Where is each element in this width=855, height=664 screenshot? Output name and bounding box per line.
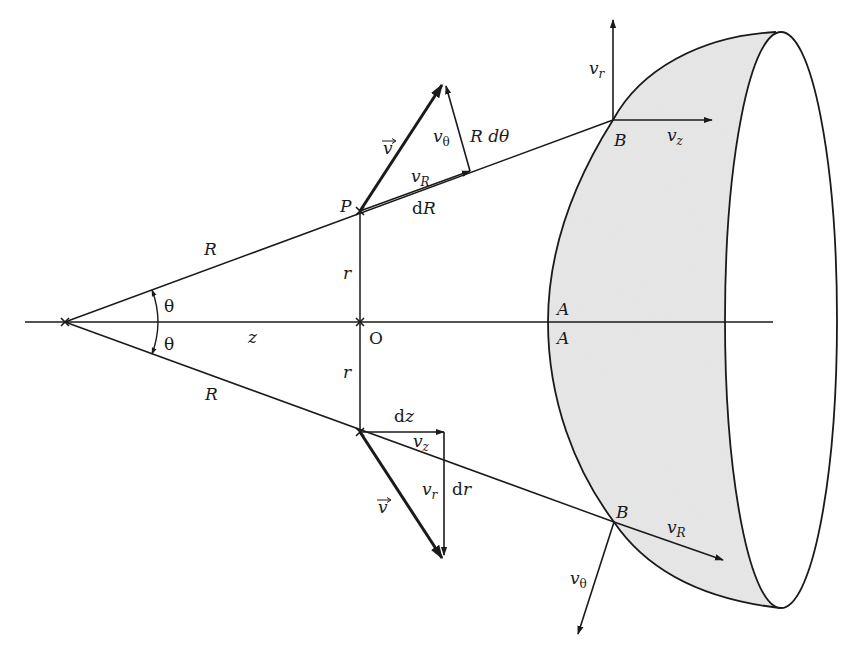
label-O: O (369, 328, 383, 348)
label-r-upper: r (343, 263, 352, 283)
label-vtheta-upper: vθ (433, 126, 450, 149)
label-theta-upper: θ (164, 296, 174, 316)
velocity-vector-upper (360, 85, 442, 211)
label-v-vector-upper: v (382, 138, 396, 158)
label-dz: dz (394, 406, 415, 426)
label-vtheta-lower: vθ (570, 568, 587, 591)
label-dR: dR (412, 198, 436, 218)
radial-line-upper (65, 120, 613, 322)
label-B-upper: B (613, 130, 627, 150)
spherical-cap (548, 32, 837, 608)
label-P: P (339, 196, 352, 216)
theta-arc-upper (152, 290, 158, 322)
label-dr: dr (452, 479, 472, 499)
label-vr-lower: vr (422, 479, 439, 502)
label-RdTheta: R dθ (469, 126, 509, 146)
label-z: z (247, 327, 258, 347)
cap-base-ellipse (725, 32, 837, 608)
label-vr-top: vr (589, 58, 606, 81)
label-v-vector-lower: v (377, 497, 391, 517)
spherical-cap-diagram: R R θ θ z O r r P v vθ R dθ vR dR vr B v… (0, 0, 855, 664)
vtheta-arrow-upper (446, 86, 470, 171)
label-B-lower: B (615, 502, 629, 522)
label-vz-lower: vz (413, 431, 430, 454)
label-R-lower: R (204, 384, 218, 404)
label-A-lower: A (555, 328, 569, 348)
theta-arc-lower (152, 322, 158, 354)
label-A-upper: A (555, 299, 569, 319)
radial-line-lower (65, 322, 614, 522)
label-vR-upper: vR (411, 166, 430, 189)
label-r-lower: r (343, 362, 352, 382)
label-R-upper: R (203, 239, 217, 259)
label-theta-lower: θ (164, 334, 174, 354)
